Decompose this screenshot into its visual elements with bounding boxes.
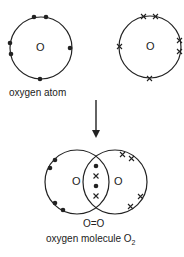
electron-dot <box>9 52 14 57</box>
electron-dot <box>48 166 53 171</box>
electron-cross <box>128 204 133 209</box>
oxygen-molecule <box>45 150 147 214</box>
atom-label: oxygen atom <box>9 87 66 98</box>
electron-dot <box>44 15 49 20</box>
down-arrow-icon <box>92 100 100 138</box>
electron-cross <box>120 152 125 157</box>
shared-electron-dot <box>94 164 99 169</box>
molecule-label: oxygen molecule O2 <box>46 233 136 246</box>
electron-dot <box>32 15 37 20</box>
electron-dot <box>53 158 58 163</box>
molecule-label-text: oxygen molecule O <box>46 233 132 244</box>
molecule-left-symbol: O <box>72 175 81 187</box>
atom2-symbol: O <box>146 40 155 52</box>
structural-formula: O=O <box>83 218 104 229</box>
molecule-label-subscript: 2 <box>132 239 136 246</box>
electron-cross <box>129 156 134 161</box>
electron-cross <box>138 194 143 199</box>
electron-dot <box>68 46 73 51</box>
shared-electron-dot <box>94 184 99 189</box>
atom1-symbol: O <box>36 41 45 53</box>
molecule-right-symbol: O <box>114 175 123 187</box>
electron-dot <box>8 41 13 46</box>
shared-electron-cross <box>94 194 99 199</box>
shared-electron-cross <box>94 174 99 179</box>
electron-dot <box>53 201 58 206</box>
electron-dot <box>61 208 66 213</box>
electron-dot <box>38 77 43 82</box>
